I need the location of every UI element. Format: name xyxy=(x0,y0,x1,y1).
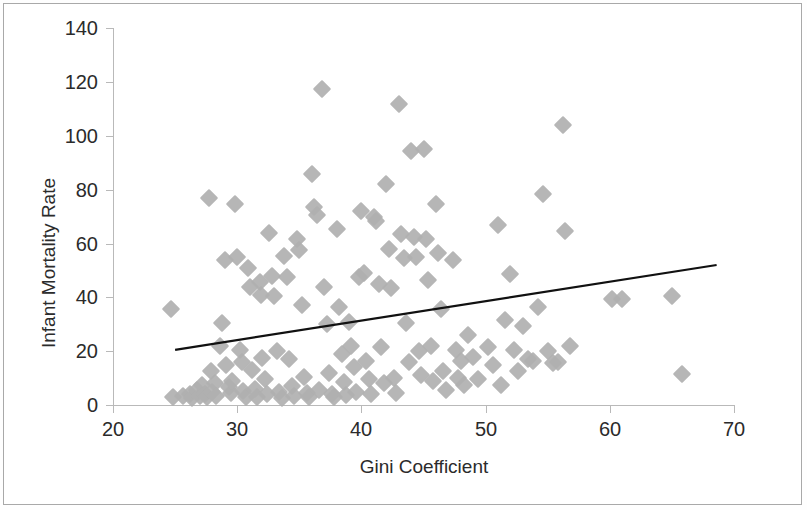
trendline-segment xyxy=(175,265,717,350)
trendline xyxy=(0,0,807,510)
chart-screenshot: 140 120 100 80 60 40 20 0 20 30 40 50 60… xyxy=(0,0,807,510)
scatter-plot: 140 120 100 80 60 40 20 0 20 30 40 50 60… xyxy=(0,0,807,510)
